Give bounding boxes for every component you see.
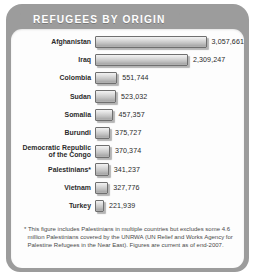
bar-row: Afghanistan 3,057,661 [11,33,244,50]
bar-value-label: 551,744 [122,74,148,82]
bar-category-label: Somalia [11,111,95,119]
bar-category-label: Turkey [11,202,95,210]
bar-category-label: Vietnam [11,184,95,192]
bar-fill [95,200,104,212]
bar-fill [95,182,108,194]
bar-row: Iraq 2,309,247 [11,51,244,68]
bar-fill [95,145,110,157]
bar-value-label: 2,309,247 [193,56,225,64]
bar-track: 2,309,247 [95,54,244,66]
bar-category-label: Iraq [11,56,95,64]
bar-row: Burundi 375,727 [11,124,244,141]
bar-category-label: Afghanistan [11,38,95,46]
bar-row: Somalia 457,357 [11,106,244,123]
bar-track: 327,776 [95,182,244,194]
bar-category-label: Democratic Republic of the Congo [11,144,95,159]
bar-fill [95,163,109,175]
chart-title-tab: REFUGEES BY ORIGIN [20,9,180,30]
bar-row: Vietnam 327,776 [11,179,244,196]
bar-fill [95,127,110,139]
bar-fill [95,72,117,84]
bar-value-label: 327,776 [113,184,139,192]
chart-card: Afghanistan 3,057,661 Iraq 2,309,247 Col… [11,29,244,268]
bar-value-label: 3,057,661 [212,38,244,46]
bar-fill [95,54,188,66]
bar-category-label: Palestinians* [11,166,95,174]
page-title: REFUGEES BY ORIGIN [33,14,166,25]
bar-value-label: 523,032 [121,93,147,101]
chart-footnote: * This figure includes Palestinians in m… [24,225,236,249]
bar-value-label: 370,374 [115,147,141,155]
bar-track: 221,939 [95,200,244,212]
bar-value-label: 375,727 [115,129,141,137]
chart-panel-frame: REFUGEES BY ORIGIN Afghanistan 3,057,661… [6,4,249,272]
bar-fill [95,109,113,121]
bar-row: Sudan 523,032 [11,88,244,105]
bar-track: 551,744 [95,72,244,84]
bar-track: 370,374 [95,145,244,157]
bar-category-label: Colombia [11,74,95,82]
bar-track: 3,057,661 [95,36,244,48]
bar-track: 523,032 [95,90,244,102]
bar-row: Colombia 551,744 [11,70,244,87]
bar-chart: Afghanistan 3,057,661 Iraq 2,309,247 Col… [11,33,244,216]
bar-value-label: 457,357 [118,111,144,119]
bar-row: Palestinians* 341,237 [11,161,244,178]
bar-track: 375,727 [95,127,244,139]
bar-fill [95,90,116,102]
bar-value-label: 341,237 [114,166,140,174]
bar-category-label: Sudan [11,93,95,101]
bar-fill [95,36,207,48]
bar-row: Turkey 221,939 [11,198,244,215]
bar-track: 457,357 [95,109,244,121]
bar-row: Democratic Republic of the Congo 370,374 [11,143,244,160]
bar-category-label: Burundi [11,129,95,137]
bar-value-label: 221,939 [109,202,135,210]
bar-track: 341,237 [95,163,244,175]
